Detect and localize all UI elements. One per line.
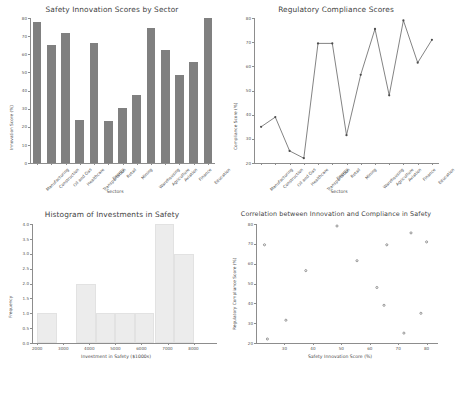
histogram-bin[interactable]: [76, 284, 96, 344]
data-point[interactable]: [345, 134, 347, 136]
bar-warehousing[interactable]: [147, 28, 156, 163]
bar-energy[interactable]: [104, 121, 113, 163]
data-point[interactable]: [374, 28, 376, 30]
x-tick-mark: [37, 343, 38, 345]
y-tick-label: 80: [232, 222, 253, 227]
y-tick-mark: [28, 163, 30, 164]
x-tick-mark: [347, 163, 348, 165]
x-tick-mark: [403, 163, 404, 165]
chart-title: Histogram of Investments in Safety: [0, 210, 224, 219]
histogram-bin[interactable]: [115, 313, 135, 343]
x-tick-mark: [313, 343, 314, 345]
y-tick-label: 50: [6, 70, 27, 75]
y-tick-mark: [30, 298, 32, 299]
bar-oil-and-gas[interactable]: [61, 33, 70, 164]
x-axis-line: [32, 343, 217, 344]
data-point[interactable]: [386, 244, 388, 246]
bar-aviation[interactable]: [175, 75, 184, 163]
data-point[interactable]: [331, 42, 333, 44]
histogram-bin[interactable]: [174, 254, 194, 343]
plot-area: 20304050607080304050607080: [256, 224, 438, 343]
x-tick-mark: [284, 343, 285, 345]
y-tick-label: 20: [232, 341, 253, 346]
y-tick-label: 0.5: [8, 326, 29, 331]
x-axis-label: Investment in Safety ($1000s): [16, 354, 216, 359]
y-tick-label: 3.0: [8, 251, 29, 256]
x-tick-mark: [261, 163, 262, 165]
panel-investment-histogram: Histogram of Investments in Safety Frequ…: [0, 198, 224, 395]
x-tick-label: Retail: [125, 167, 137, 179]
y-tick-mark: [30, 224, 32, 225]
x-tick-mark: [427, 343, 428, 345]
x-tick-mark: [141, 343, 142, 345]
x-tick-label: 70: [389, 346, 407, 351]
x-tick-mark: [115, 343, 116, 345]
y-tick-label: 60: [230, 64, 251, 69]
data-point[interactable]: [426, 241, 428, 243]
x-tick-mark: [341, 343, 342, 345]
y-tick-label: 20: [6, 124, 27, 129]
y-tick-label: 0: [6, 161, 27, 166]
y-tick-label: 1.0: [8, 311, 29, 316]
x-tick-mark: [80, 163, 81, 165]
data-point[interactable]: [317, 42, 319, 44]
data-point[interactable]: [336, 225, 338, 227]
x-tick-mark: [389, 163, 390, 165]
histogram-bin[interactable]: [155, 224, 175, 343]
x-tick-mark: [94, 163, 95, 165]
y-tick-label: 70: [232, 241, 253, 246]
data-point[interactable]: [356, 260, 358, 262]
y-tick-label: 40: [230, 112, 251, 117]
x-tick-label: 2000: [28, 346, 46, 351]
x-axis-label: Sectors: [239, 189, 439, 194]
data-point[interactable]: [376, 286, 378, 288]
x-axis-label: Sectors: [15, 189, 215, 194]
data-point[interactable]: [403, 332, 405, 334]
bar-transportation[interactable]: [90, 43, 99, 163]
bar-finance[interactable]: [189, 62, 198, 163]
bar-mining[interactable]: [132, 95, 141, 163]
data-point[interactable]: [305, 270, 307, 272]
data-point[interactable]: [417, 62, 419, 64]
data-point[interactable]: [410, 232, 412, 234]
y-axis-line: [30, 18, 31, 163]
data-point[interactable]: [289, 150, 291, 152]
x-tick-mark: [89, 343, 90, 345]
bar-retail[interactable]: [118, 108, 127, 163]
x-tick-label: 50: [332, 346, 350, 351]
y-tick-label: 20: [230, 161, 251, 166]
data-point[interactable]: [420, 312, 422, 314]
data-point[interactable]: [303, 157, 305, 159]
bar-manufacturing[interactable]: [33, 22, 42, 163]
data-point[interactable]: [388, 94, 390, 96]
histogram-bin[interactable]: [96, 313, 116, 343]
bar-construction[interactable]: [47, 45, 56, 163]
data-point[interactable]: [274, 116, 276, 118]
x-tick-label: Finance: [197, 167, 212, 182]
bar-healthcare[interactable]: [75, 120, 84, 164]
histogram-bin[interactable]: [135, 313, 155, 343]
data-point[interactable]: [263, 244, 265, 246]
x-tick-label: 5000: [106, 346, 124, 351]
x-tick-mark: [66, 163, 67, 165]
data-point[interactable]: [360, 74, 362, 76]
data-point[interactable]: [383, 304, 385, 306]
x-tick-mark: [37, 163, 38, 165]
data-point[interactable]: [285, 319, 287, 321]
data-point[interactable]: [260, 126, 262, 128]
x-tick-mark: [165, 163, 166, 165]
y-axis-label: Compliance Score (%): [233, 103, 238, 151]
data-point[interactable]: [431, 39, 433, 41]
y-tick-label: 60: [6, 52, 27, 57]
data-point[interactable]: [402, 19, 404, 21]
x-tick-label: 60: [361, 346, 379, 351]
data-point[interactable]: [266, 338, 268, 340]
x-tick-mark: [304, 163, 305, 165]
histogram-bin[interactable]: [37, 313, 57, 343]
y-tick-label: 0.0: [8, 341, 29, 346]
y-tick-label: 3.5: [8, 237, 29, 242]
bar-education[interactable]: [204, 18, 213, 163]
x-tick-label: 3000: [54, 346, 72, 351]
bar-agriculture[interactable]: [161, 50, 170, 163]
